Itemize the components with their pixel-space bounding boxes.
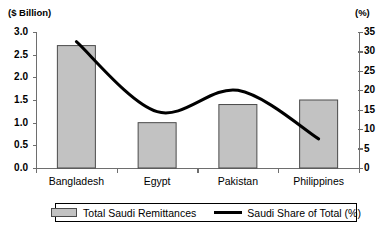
- chart-figure: ($ Billion) (%) 0.00.51.01.52.02.53.0 05…: [0, 0, 391, 235]
- category-label: Pakistan: [198, 175, 279, 187]
- legend-entry: Saudi Share of Total (%): [214, 207, 361, 219]
- bar: [138, 123, 176, 168]
- category-label: Bangladesh: [36, 175, 117, 187]
- bar: [300, 100, 338, 168]
- share-line: [76, 42, 318, 139]
- legend-label: Total Saudi Remittances: [83, 207, 196, 219]
- legend-bar-swatch: [51, 208, 77, 217]
- chart-legend: Total Saudi RemittancesSaudi Share of To…: [55, 203, 357, 222]
- bar: [219, 105, 257, 168]
- bar: [57, 46, 95, 168]
- legend-label: Saudi Share of Total (%): [247, 207, 361, 219]
- plot-area: [0, 0, 391, 235]
- line-series: [76, 42, 318, 139]
- category-label: Philippines: [278, 175, 359, 187]
- category-label: Egypt: [117, 175, 198, 187]
- legend-line-swatch: [214, 211, 242, 214]
- legend-entry: Total Saudi Remittances: [51, 207, 196, 219]
